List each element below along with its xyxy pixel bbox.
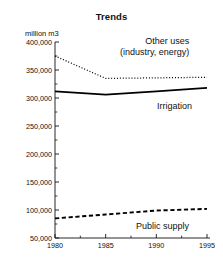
x-axis-tick-labels: 1980198519901995 — [47, 241, 215, 250]
series-line-irrigation — [55, 88, 207, 95]
series-line-other-uses — [55, 56, 207, 78]
series-label-public-supply: Public supply — [136, 221, 189, 231]
plot-area: 400,000350,000300,000250,000200,000150,0… — [0, 0, 223, 279]
series-label-other-uses-line1: Other uses — [120, 36, 189, 47]
y-axis-tick-label: 400,000 — [26, 38, 52, 47]
y-axis-group: 400,000350,000300,000250,000200,000150,0… — [26, 38, 59, 243]
x-axis-tick-label: 1990 — [148, 241, 164, 250]
y-axis-tick-label: 200,000 — [26, 150, 52, 159]
series-line-public-supply — [55, 209, 207, 219]
y-axis-tick-label: 350,000 — [26, 66, 52, 75]
x-axis-tick-label: 1995 — [199, 241, 215, 250]
y-axis-tick-label: 250,000 — [26, 122, 52, 131]
trends-chart: Trends million m3 400,000350,000300,0002… — [0, 0, 223, 279]
series-label-irrigation: Irrigation — [157, 101, 192, 111]
series-label-other-uses: Other uses (industry, energy) — [120, 36, 189, 58]
x-axis-group: 1980198519901995 — [47, 234, 215, 250]
series-label-other-uses-line2: (industry, energy) — [120, 47, 189, 58]
y-axis-tick-label: 300,000 — [26, 94, 52, 103]
x-axis-tick-label: 1980 — [47, 241, 63, 250]
y-axis-tick-labels: 400,000350,000300,000250,000200,000150,0… — [26, 38, 52, 243]
y-axis-tick-label: 150,000 — [26, 178, 52, 187]
y-axis-tick-label: 100,000 — [26, 206, 52, 215]
data-series-group — [55, 56, 207, 218]
x-axis-tick-label: 1985 — [98, 241, 114, 250]
